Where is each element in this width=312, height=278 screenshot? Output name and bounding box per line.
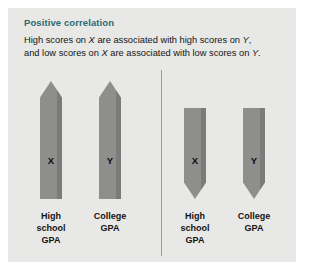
caption-line-2-part-b: are associated with low scores on [108, 48, 252, 58]
figure-card: Positive correlation High scores on X ar… [8, 8, 296, 262]
bar-group-college-gpa-up: Y CollegeGPA [79, 62, 141, 262]
bar-shade [260, 108, 265, 199]
bar-group-college-gpa-down: Y CollegeGPA [223, 62, 285, 262]
up-arrow-bar-x: X [40, 81, 62, 199]
figure-caption: High scores on X are associated with hig… [24, 34, 284, 60]
bar-shape [99, 81, 121, 199]
bar-letter-y: Y [243, 155, 265, 166]
bar-shade [57, 81, 62, 199]
down-arrow-bar-y: Y [243, 108, 265, 199]
caption-line-2-part-c: . [258, 48, 261, 58]
bar-letter-y: Y [99, 155, 121, 166]
bar-shade [201, 108, 206, 199]
bar-group-high-school-gpa-up: X HighschoolGPA [20, 62, 82, 262]
caption-line-1-part-c: , [249, 35, 252, 45]
bar-group-high-school-gpa-down: X HighschoolGPA [164, 62, 226, 262]
bar-caption-college-gpa: CollegeGPA [219, 210, 289, 234]
bar-letter-x: X [184, 155, 206, 166]
down-arrow-bar-x: X [184, 108, 206, 199]
up-arrow-bar-y: Y [99, 81, 121, 199]
panel-positive-high: X HighschoolGPA Y CollegeGPA [8, 62, 152, 262]
bar-shape [40, 81, 62, 199]
caption-line-2-part-a: and low scores on [24, 48, 102, 58]
bar-letter-x: X [40, 155, 62, 166]
bar-shade [116, 81, 121, 199]
bar-shape [243, 108, 265, 199]
bar-caption-college-gpa: CollegeGPA [75, 210, 145, 234]
caption-line-1-part-b: are associated with high scores on [95, 35, 243, 45]
bar-shape [184, 108, 206, 199]
figure-panels: X HighschoolGPA Y CollegeGPA [8, 62, 296, 262]
panel-positive-low: X HighschoolGPA Y CollegeGPA [152, 62, 296, 262]
caption-line-1-part-a: High scores on [24, 35, 89, 45]
figure-title: Positive correlation [24, 17, 114, 28]
